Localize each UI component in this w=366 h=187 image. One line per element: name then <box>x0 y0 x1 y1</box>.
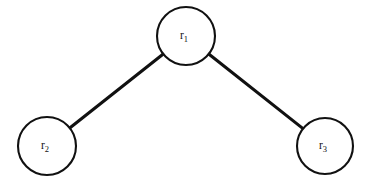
node-r1-label-subscript: 1 <box>184 33 188 43</box>
node-r3-label-subscript: 3 <box>323 143 327 153</box>
node-r1[interactable]: r1 <box>157 7 215 65</box>
node-r2[interactable]: r2 <box>18 117 76 175</box>
edge-r1-r3 <box>209 54 303 129</box>
node-r3[interactable]: r3 <box>297 118 353 174</box>
node-r2-label-subscript: 2 <box>45 143 49 153</box>
graph-diagram: r1 r2 r3 <box>0 0 366 187</box>
edge-r1-r2 <box>70 54 164 128</box>
diagram-canvas: r1 r2 r3 <box>0 0 366 187</box>
